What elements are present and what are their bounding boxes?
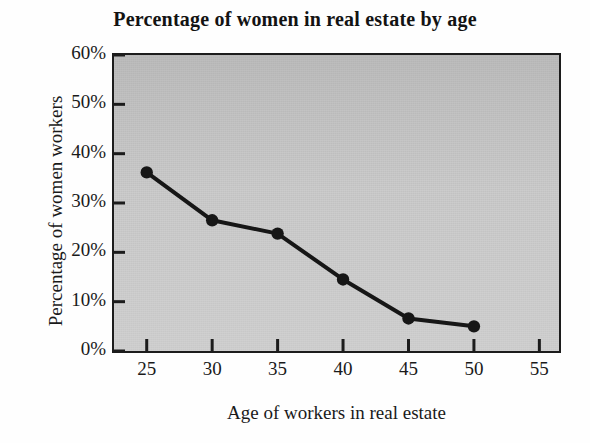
data-series-svg (114, 55, 559, 351)
y-axis-title: Percentage of women workers (45, 51, 67, 371)
data-point (206, 214, 218, 226)
x-tick-label-text: 35 (268, 358, 287, 380)
y-tick-label-text: 60% (71, 42, 106, 64)
y-tick-label-text: 10% (71, 289, 106, 311)
data-point (337, 273, 349, 285)
x-tick-label-text: 25 (137, 358, 156, 380)
data-point (402, 312, 414, 324)
x-tick-label-text: 50 (464, 358, 483, 380)
data-point (141, 166, 153, 178)
y-tick-label-text: 30% (71, 190, 106, 212)
chart-figure: Percentage of women in real estate by ag… (0, 0, 590, 443)
data-point (468, 320, 480, 332)
y-tick-label-text: 0% (81, 338, 106, 360)
x-tick-label-text: 55 (530, 358, 549, 380)
data-point (271, 227, 283, 239)
y-tick-label-text: 20% (71, 239, 106, 261)
x-axis-title: Age of workers in real estate (112, 402, 561, 424)
data-line (147, 172, 474, 326)
y-tick-label-text: 40% (71, 141, 106, 163)
y-tick-label-text: 50% (71, 91, 106, 113)
plot-area (112, 53, 561, 353)
x-tick-label-text: 30 (203, 358, 222, 380)
chart-title: Percentage of women in real estate by ag… (0, 8, 590, 31)
x-tick-label-text: 40 (334, 358, 353, 380)
data-markers (141, 166, 481, 332)
x-tick-label-text: 45 (399, 358, 418, 380)
